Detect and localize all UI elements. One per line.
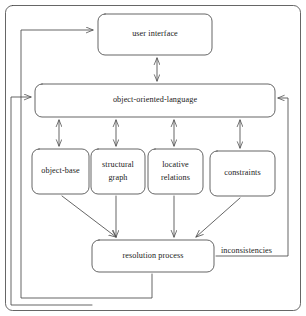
edge-resolution-to-user-interface [21, 30, 152, 298]
edge-inconsistencies-to-ool [216, 98, 288, 256]
node-object-oriented-language-box [35, 84, 275, 117]
node-constraints-box [210, 151, 275, 196]
node-structural-graph-box [91, 149, 145, 194]
node-resolution-process-box [92, 240, 214, 272]
diagram-svg [0, 0, 306, 316]
diagram-canvas: user interface object-oriented-language … [0, 0, 306, 316]
node-locative-relations-box [148, 149, 203, 194]
edge-constraints-to-resolution [196, 198, 240, 237]
edge-label-inconsistencies: inconsistencies [221, 246, 272, 255]
node-object-base-box [32, 149, 89, 194]
edge-resolution-to-ool-left [11, 97, 92, 305]
node-user-interface-box [98, 14, 212, 55]
edge-object-base-to-resolution [62, 196, 116, 237]
system-boundary-frame [6, 6, 301, 311]
